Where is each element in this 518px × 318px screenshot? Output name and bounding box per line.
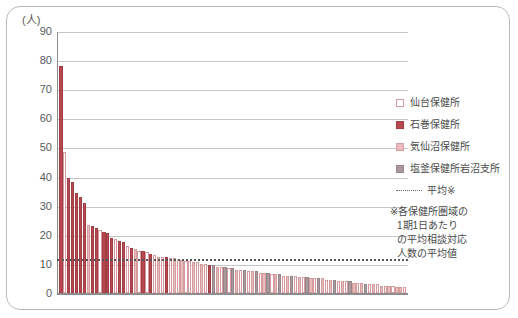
footnote: ※各保健所圏域の 1期1日あたり の平均相談対応 人数の平均値: [390, 205, 516, 261]
bar: [259, 273, 262, 293]
bar: [321, 278, 324, 293]
bar: [387, 286, 390, 293]
y-tick-60: 60: [22, 113, 52, 124]
bar: [360, 283, 363, 293]
bar: [302, 277, 305, 293]
bar: [345, 281, 348, 293]
bar: [227, 268, 230, 293]
bar: [282, 276, 285, 293]
legend-label-sendai: 仙台保健所: [410, 97, 460, 108]
bar: [368, 284, 371, 293]
bar: [223, 267, 226, 293]
bar: [270, 274, 273, 293]
bar: [364, 284, 367, 293]
bar: [278, 274, 281, 293]
legend-item-ishinomaki[interactable]: 石巻保健所: [396, 119, 516, 130]
bar: [391, 286, 394, 293]
y-tick-30: 30: [22, 201, 52, 212]
bar: [110, 238, 113, 293]
plot-area: [57, 32, 408, 294]
bar: [161, 257, 164, 293]
bar: [204, 264, 207, 293]
bar: [126, 246, 129, 293]
bar: [266, 273, 269, 293]
bar: [122, 242, 125, 293]
legend-label-ishinomaki: 石巻保健所: [410, 119, 460, 130]
footnote-line-2: 1期1日あたり: [390, 219, 516, 233]
bar: [329, 280, 332, 293]
bar: [247, 271, 250, 293]
bar: [165, 257, 168, 293]
bar: [243, 270, 246, 293]
y-axis-tick-labels: 9080706050403020100: [20, 32, 52, 294]
footnote-line-3: の平均相談対応: [390, 233, 516, 247]
bar: [79, 197, 82, 293]
y-tick-50: 50: [22, 142, 52, 153]
bar: [380, 286, 383, 293]
legend: 仙台保健所 石巻保健所 気仙沼保健所 塩釜保健所岩沼支所 平均※: [396, 97, 516, 204]
bar: [372, 284, 375, 293]
bar: [75, 193, 78, 293]
bar: [341, 281, 344, 293]
bar: [177, 260, 180, 293]
bar: [298, 277, 301, 293]
legend-item-average[interactable]: 平均※: [414, 185, 516, 196]
gridline-0: [57, 294, 408, 295]
bar: [196, 262, 199, 293]
bar: [98, 230, 101, 293]
bar: [274, 274, 277, 293]
bar: [200, 264, 203, 293]
bar: [216, 267, 219, 293]
bar: [305, 277, 308, 293]
bar: [169, 258, 172, 293]
bar: [356, 283, 359, 293]
average-line: [57, 259, 408, 261]
y-axis-line: [57, 32, 58, 294]
bar: [255, 271, 258, 293]
x-axis-line: [57, 293, 408, 294]
y-tick-40: 40: [22, 172, 52, 183]
legend-swatch-sendai-icon: [396, 99, 404, 107]
y-tick-80: 80: [22, 55, 52, 66]
bar: [83, 203, 86, 293]
bar: [376, 284, 379, 293]
bar: [180, 260, 183, 293]
bar: [137, 251, 140, 293]
legend-swatch-shiogama-icon: [396, 165, 404, 173]
bar-series: [59, 32, 407, 293]
legend-item-kesennuma[interactable]: 気仙沼保健所: [396, 141, 516, 152]
bar: [106, 233, 109, 293]
bar: [134, 249, 137, 293]
bar: [71, 182, 74, 293]
bar: [262, 273, 265, 293]
bar: [231, 268, 234, 293]
bar: [141, 251, 144, 293]
bar: [352, 283, 355, 293]
bar: [184, 261, 187, 293]
y-tick-10: 10: [22, 259, 52, 270]
bar: [290, 276, 293, 293]
y-axis-unit-label: (人): [22, 14, 40, 26]
bar: [63, 152, 66, 293]
y-tick-20: 20: [22, 230, 52, 241]
bar: [286, 276, 289, 293]
bar: [130, 248, 133, 293]
footnote-line-1: ※各保健所圏域の: [390, 205, 516, 219]
legend-label-average: 平均※: [427, 185, 455, 196]
y-tick-90: 90: [22, 26, 52, 37]
bar: [192, 262, 195, 293]
legend-item-shiogama[interactable]: 塩釜保健所岩沼支所: [396, 163, 516, 174]
y-tick-0: 0: [22, 288, 52, 299]
bar: [309, 278, 312, 293]
bar: [208, 265, 211, 293]
bar: [239, 270, 242, 293]
legend-label-kesennuma: 気仙沼保健所: [410, 141, 470, 152]
bar: [102, 232, 105, 293]
legend-item-sendai[interactable]: 仙台保健所: [396, 97, 516, 108]
bar: [157, 257, 160, 293]
legend-label-shiogama: 塩釜保健所岩沼支所: [410, 163, 500, 174]
bar: [317, 278, 320, 293]
bar: [294, 276, 297, 293]
bar: [333, 280, 336, 293]
footnote-line-4: 人数の平均値: [390, 247, 516, 261]
